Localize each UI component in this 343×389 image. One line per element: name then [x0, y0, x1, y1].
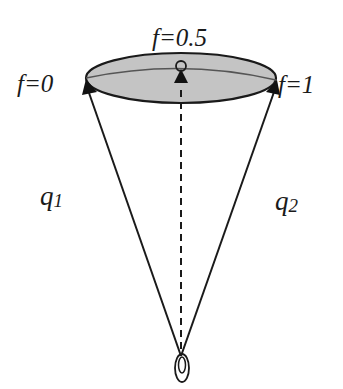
- source-inner-ellipse: [179, 357, 186, 373]
- label-q2-sub: 2: [289, 195, 299, 216]
- label-q2: q2: [275, 186, 299, 216]
- source-outer-ellipse: [175, 354, 189, 382]
- label-f-right: f=1: [278, 71, 314, 98]
- diagram-svg: f=0 f=0.5 f=1 q1 q2: [0, 0, 343, 389]
- label-q1: q1: [40, 181, 63, 211]
- label-f-left: f=0: [17, 70, 54, 97]
- label-q2-base: q: [275, 186, 289, 216]
- label-q1-sub: 1: [54, 190, 64, 211]
- label-q1-base: q: [40, 181, 54, 211]
- right-side-line: [181, 92, 274, 356]
- label-f-mid: f=0.5: [152, 24, 207, 51]
- left-side-line: [88, 90, 181, 356]
- cone-diagram: f=0 f=0.5 f=1 q1 q2: [0, 0, 343, 389]
